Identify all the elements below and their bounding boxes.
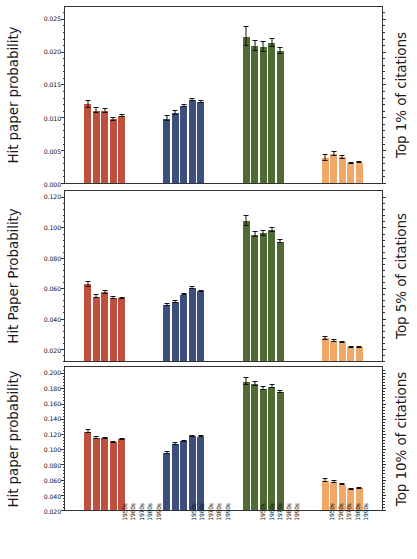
bar[interactable] — [93, 297, 100, 362]
bar[interactable] — [243, 382, 250, 510]
bar-slot — [251, 7, 258, 183]
bar-slot — [322, 7, 329, 183]
bar[interactable] — [180, 295, 187, 361]
bar[interactable] — [163, 453, 170, 510]
bar[interactable] — [163, 119, 170, 183]
panel-2-y-tick-label: 0.040 — [44, 316, 61, 323]
bar[interactable] — [197, 291, 204, 361]
bar[interactable] — [189, 100, 196, 183]
panel-2-minor-tick — [382, 240, 385, 241]
error-bar-cap — [278, 392, 283, 393]
bar[interactable] — [118, 298, 125, 361]
bar[interactable] — [347, 347, 354, 361]
error-bar-cap — [190, 288, 195, 289]
bar[interactable] — [101, 292, 108, 361]
bar[interactable] — [110, 442, 117, 510]
panel-2-y-tick-label: 0.020 — [44, 346, 61, 353]
bar[interactable] — [180, 441, 187, 510]
panel-2-minor-tick — [382, 294, 385, 295]
bar-slot — [110, 7, 117, 183]
panel-1-minor-tick — [63, 32, 66, 33]
bar[interactable] — [243, 37, 250, 183]
bar[interactable] — [101, 438, 108, 510]
bar[interactable] — [189, 288, 196, 361]
bar[interactable] — [260, 389, 267, 510]
bar[interactable] — [330, 154, 337, 183]
bar-slot — [260, 7, 267, 183]
x-tick-slot: 1980s — [350, 510, 357, 556]
panel-2-bar-groups — [65, 191, 382, 361]
bar[interactable] — [243, 221, 250, 361]
bar[interactable] — [197, 437, 204, 510]
bar[interactable] — [197, 102, 204, 183]
bar[interactable] — [118, 116, 125, 183]
panel-1-minor-tick — [63, 19, 66, 20]
bar[interactable] — [322, 158, 329, 183]
error-bar-cap — [269, 231, 274, 232]
panel-1-minor-tick — [63, 111, 66, 112]
bar-slot — [268, 367, 275, 510]
bar[interactable] — [251, 384, 258, 510]
bar[interactable] — [268, 387, 275, 510]
panel-3-minor-tick — [63, 489, 66, 490]
bar[interactable] — [268, 230, 275, 361]
panel-3-minor-tick — [382, 416, 385, 417]
error-bar-cap — [173, 300, 178, 301]
panel-top-5-percent: Hit Paper Probability Top 5% of citation… — [0, 190, 417, 362]
panel-3-minor-tick — [382, 483, 385, 484]
bar[interactable] — [110, 298, 117, 361]
error-bar-cap — [252, 236, 257, 237]
bar[interactable] — [251, 46, 258, 183]
bar[interactable] — [93, 111, 100, 183]
bar[interactable] — [322, 338, 329, 361]
bar[interactable] — [339, 342, 346, 361]
bar[interactable] — [172, 302, 179, 361]
bar[interactable] — [277, 51, 284, 183]
panel-2-minor-tick — [382, 300, 385, 301]
bar[interactable] — [84, 284, 91, 361]
bar[interactable] — [251, 235, 258, 361]
panel-1-minor-tick — [63, 45, 66, 46]
bar-group-group-3-green — [224, 191, 303, 361]
bar[interactable] — [268, 43, 275, 183]
error-bar-cap — [198, 102, 203, 103]
panel-3-minor-tick — [382, 407, 385, 408]
bar[interactable] — [84, 104, 91, 183]
bar[interactable] — [189, 436, 196, 510]
panel-3-minor-tick — [63, 428, 66, 429]
bar[interactable] — [277, 242, 284, 361]
error-bar-cap — [269, 38, 274, 39]
bar[interactable] — [356, 163, 363, 183]
panel-2-minor-tick — [382, 252, 385, 253]
bar[interactable] — [356, 347, 363, 361]
panel-1-minor-tick — [63, 150, 66, 151]
bar[interactable] — [180, 106, 187, 183]
bar[interactable] — [101, 111, 108, 183]
bar[interactable] — [260, 233, 267, 361]
bar[interactable] — [110, 119, 117, 183]
panel-1-minor-tick — [382, 150, 385, 151]
panel-3-bar-groups — [65, 367, 382, 510]
bar[interactable] — [330, 341, 337, 361]
bar[interactable] — [84, 432, 91, 510]
error-bar-cap — [244, 45, 249, 46]
error-bar-cap — [190, 98, 195, 99]
bar[interactable] — [339, 157, 346, 183]
panel-2-minor-tick — [382, 246, 385, 247]
bar[interactable] — [118, 439, 125, 510]
bar[interactable] — [347, 163, 354, 183]
panel-2-minor-tick — [63, 215, 66, 216]
bar[interactable] — [172, 444, 179, 510]
bar[interactable] — [163, 305, 170, 361]
panel-3-minor-tick — [382, 379, 385, 380]
panel-1-minor-tick — [382, 39, 385, 40]
panel-3-minor-tick — [63, 416, 66, 417]
bar-slot — [356, 367, 363, 510]
bar[interactable] — [260, 47, 267, 183]
bar-group-group-2-blue — [144, 7, 223, 183]
bar-slot — [180, 7, 187, 183]
bar[interactable] — [93, 438, 100, 510]
bar[interactable] — [277, 392, 284, 510]
bar[interactable] — [172, 113, 179, 183]
panel-2-minor-tick — [63, 203, 66, 204]
